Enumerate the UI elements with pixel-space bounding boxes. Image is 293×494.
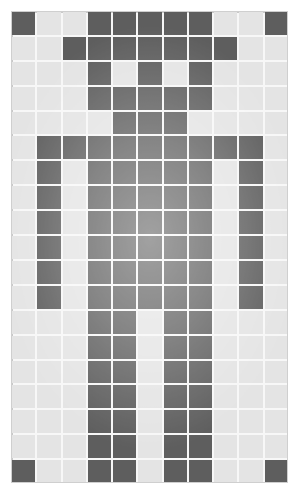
grid-cell-filled[interactable] — [239, 136, 262, 159]
grid-cell-filled[interactable] — [239, 211, 262, 234]
grid-cell-filled[interactable] — [37, 236, 60, 259]
grid-cell-filled[interactable] — [239, 286, 262, 309]
grid-cell-empty[interactable] — [214, 211, 237, 234]
grid-cell-filled[interactable] — [189, 12, 212, 35]
grid-cell-filled[interactable] — [138, 186, 161, 209]
grid-cell-empty[interactable] — [12, 112, 35, 135]
grid-cell-empty[interactable] — [37, 112, 60, 135]
grid-cell-empty[interactable] — [37, 460, 60, 483]
grid-cell-empty[interactable] — [12, 385, 35, 408]
grid-cell-empty[interactable] — [239, 410, 262, 433]
grid-cell-empty[interactable] — [63, 385, 86, 408]
grid-cell-empty[interactable] — [138, 361, 161, 384]
grid-cell-empty[interactable] — [265, 87, 288, 110]
grid-cell-filled[interactable] — [113, 112, 136, 135]
grid-cell-empty[interactable] — [12, 336, 35, 359]
grid-cell-empty[interactable] — [265, 410, 288, 433]
grid-cell-filled[interactable] — [63, 37, 86, 60]
grid-cell-empty[interactable] — [37, 410, 60, 433]
grid-cell-filled[interactable] — [113, 211, 136, 234]
grid-cell-empty[interactable] — [239, 87, 262, 110]
grid-cell-empty[interactable] — [239, 112, 262, 135]
grid-cell-empty[interactable] — [138, 435, 161, 458]
grid-cell-empty[interactable] — [265, 261, 288, 284]
grid-cell-empty[interactable] — [214, 336, 237, 359]
grid-cell-filled[interactable] — [189, 410, 212, 433]
grid-cell-empty[interactable] — [63, 62, 86, 85]
grid-cell-filled[interactable] — [138, 12, 161, 35]
grid-cell-empty[interactable] — [214, 385, 237, 408]
grid-cell-empty[interactable] — [265, 62, 288, 85]
grid-cell-filled[interactable] — [113, 286, 136, 309]
grid-cell-filled[interactable] — [189, 186, 212, 209]
grid-cell-filled[interactable] — [138, 286, 161, 309]
grid-cell-filled[interactable] — [113, 136, 136, 159]
grid-cell-empty[interactable] — [12, 87, 35, 110]
grid-cell-filled[interactable] — [164, 286, 187, 309]
grid-cell-empty[interactable] — [265, 186, 288, 209]
grid-cell-empty[interactable] — [214, 311, 237, 334]
grid-cell-empty[interactable] — [214, 161, 237, 184]
grid-cell-empty[interactable] — [37, 12, 60, 35]
grid-cell-filled[interactable] — [189, 236, 212, 259]
grid-cell-empty[interactable] — [12, 211, 35, 234]
grid-cell-filled[interactable] — [88, 12, 111, 35]
grid-cell-empty[interactable] — [12, 236, 35, 259]
grid-cell-empty[interactable] — [63, 435, 86, 458]
grid-cell-empty[interactable] — [63, 286, 86, 309]
grid-cell-filled[interactable] — [88, 435, 111, 458]
grid-cell-empty[interactable] — [214, 410, 237, 433]
grid-cell-empty[interactable] — [63, 336, 86, 359]
grid-cell-filled[interactable] — [88, 336, 111, 359]
grid-cell-filled[interactable] — [37, 161, 60, 184]
grid-cell-filled[interactable] — [138, 87, 161, 110]
grid-cell-empty[interactable] — [265, 435, 288, 458]
grid-cell-filled[interactable] — [214, 136, 237, 159]
grid-cell-empty[interactable] — [63, 410, 86, 433]
grid-cell-empty[interactable] — [239, 62, 262, 85]
grid-cell-empty[interactable] — [214, 435, 237, 458]
grid-cell-empty[interactable] — [214, 12, 237, 35]
grid-cell-filled[interactable] — [138, 161, 161, 184]
grid-cell-empty[interactable] — [138, 336, 161, 359]
grid-cell-empty[interactable] — [265, 385, 288, 408]
grid-cell-filled[interactable] — [88, 236, 111, 259]
grid-cell-filled[interactable] — [37, 286, 60, 309]
grid-cell-empty[interactable] — [63, 12, 86, 35]
grid-cell-empty[interactable] — [265, 136, 288, 159]
grid-cell-empty[interactable] — [239, 12, 262, 35]
grid-cell-empty[interactable] — [63, 112, 86, 135]
grid-cell-empty[interactable] — [265, 161, 288, 184]
grid-cell-filled[interactable] — [164, 361, 187, 384]
grid-cell-empty[interactable] — [63, 161, 86, 184]
grid-cell-filled[interactable] — [113, 87, 136, 110]
grid-cell-filled[interactable] — [164, 37, 187, 60]
grid-cell-empty[interactable] — [63, 186, 86, 209]
grid-cell-filled[interactable] — [189, 385, 212, 408]
grid-cell-filled[interactable] — [164, 336, 187, 359]
grid-cell-filled[interactable] — [164, 136, 187, 159]
grid-cell-filled[interactable] — [88, 211, 111, 234]
grid-cell-empty[interactable] — [214, 460, 237, 483]
grid-cell-empty[interactable] — [265, 286, 288, 309]
grid-cell-filled[interactable] — [164, 236, 187, 259]
grid-cell-empty[interactable] — [12, 136, 35, 159]
grid-cell-filled[interactable] — [164, 460, 187, 483]
grid-cell-empty[interactable] — [63, 460, 86, 483]
grid-cell-filled[interactable] — [138, 211, 161, 234]
grid-cell-empty[interactable] — [12, 311, 35, 334]
grid-cell-filled[interactable] — [239, 186, 262, 209]
grid-cell-filled[interactable] — [189, 136, 212, 159]
grid-cell-empty[interactable] — [113, 62, 136, 85]
grid-cell-filled[interactable] — [189, 37, 212, 60]
grid-cell-filled[interactable] — [164, 435, 187, 458]
grid-cell-empty[interactable] — [12, 37, 35, 60]
grid-cell-filled[interactable] — [88, 62, 111, 85]
grid-cell-filled[interactable] — [189, 460, 212, 483]
grid-cell-filled[interactable] — [265, 12, 288, 35]
grid-cell-empty[interactable] — [265, 236, 288, 259]
grid-cell-filled[interactable] — [88, 37, 111, 60]
grid-cell-empty[interactable] — [12, 161, 35, 184]
grid-cell-filled[interactable] — [138, 136, 161, 159]
grid-cell-filled[interactable] — [214, 37, 237, 60]
